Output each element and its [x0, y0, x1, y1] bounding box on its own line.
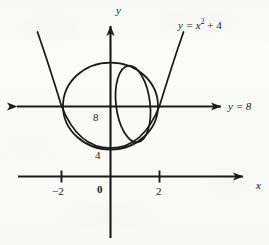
narrow-ellipse-curve [111, 64, 154, 145]
parabola-equation-prefix: y = x [178, 19, 201, 31]
x-axis-label: x [256, 180, 261, 191]
x-tick-label-neg-two: −2 [52, 186, 64, 197]
horizontal-line-label: y = 8 [228, 101, 251, 112]
y-tick-label-four: 4 [95, 150, 101, 161]
x-tick-label-two: 2 [156, 186, 162, 197]
y-tick-label-eight: 8 [93, 112, 99, 123]
plot-canvas [0, 0, 269, 245]
y-axis-label: y [116, 5, 121, 16]
parabola-equation-label: y = x2 + 4 [178, 18, 222, 31]
math-figure: y x −2 0 2 8 4 y = x2 + 4 y = 8 [0, 0, 269, 245]
x-tick-label-origin: 0 [97, 184, 103, 195]
parabola-equation-suffix: + 4 [204, 19, 221, 31]
